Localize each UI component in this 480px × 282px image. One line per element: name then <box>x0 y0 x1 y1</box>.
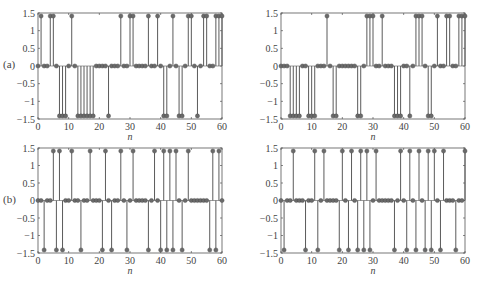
x-tick-label: 50 <box>186 255 196 266</box>
stem-marker <box>343 198 347 202</box>
stem-marker <box>389 64 393 68</box>
stem-marker <box>346 248 350 252</box>
stem-marker <box>328 64 332 68</box>
x-tick-label: 20 <box>94 255 104 266</box>
stem-marker <box>411 198 415 202</box>
stem-marker <box>435 14 439 18</box>
stem-marker <box>408 149 412 153</box>
stem-marker <box>408 114 412 118</box>
stem-marker <box>429 248 433 252</box>
y-tick-label: −1 <box>267 230 278 241</box>
stem-marker <box>73 64 77 68</box>
stem-marker <box>119 149 123 153</box>
stem-marker <box>183 64 187 68</box>
stem-marker <box>353 64 357 68</box>
stem-marker <box>441 149 445 153</box>
stem-marker <box>322 64 326 68</box>
stem-marker <box>454 64 458 68</box>
stem-marker <box>359 149 363 153</box>
stem-marker <box>131 14 135 18</box>
stem-marker <box>143 64 147 68</box>
stem-marker <box>159 64 163 68</box>
stem-marker <box>57 149 61 153</box>
stem-marker <box>316 248 320 252</box>
y-tick-label: −1.5 <box>17 114 35 125</box>
stem-marker <box>70 14 74 18</box>
stem-marker <box>220 14 224 18</box>
stem-marker <box>174 149 178 153</box>
stem-marker <box>285 64 289 68</box>
stem-marker <box>122 198 126 202</box>
stem-marker <box>152 149 156 153</box>
stem-marker <box>100 248 104 252</box>
stem-marker <box>211 64 215 68</box>
x-tick-label: 0 <box>36 121 41 132</box>
stem-marker <box>42 248 46 252</box>
y-tick-label: −0.5 <box>260 213 278 224</box>
stem-marker <box>198 64 202 68</box>
stem-marker <box>131 149 135 153</box>
stem-marker <box>143 198 147 202</box>
stem-marker <box>414 248 418 252</box>
x-tick-label: 10 <box>64 121 74 132</box>
stem-marker <box>365 149 369 153</box>
stem-marker <box>183 198 187 202</box>
x-tick-label: 20 <box>337 255 347 266</box>
stem-marker <box>91 114 95 118</box>
stem-marker <box>411 64 415 68</box>
x-tick-label: 60 <box>217 255 227 266</box>
stem-marker <box>36 64 40 68</box>
stem-marker <box>359 114 363 118</box>
x-axis-label: n <box>371 131 376 141</box>
y-tick-label: 0 <box>273 195 278 206</box>
stem-marker <box>39 14 43 18</box>
stem-marker <box>211 149 215 153</box>
stem-plot-b-left: −1.5−1−0.500.511.50102030405060n <box>0 141 240 282</box>
stem-marker <box>116 64 120 68</box>
stem-marker <box>451 198 455 202</box>
stem-marker <box>106 198 110 202</box>
stem-marker <box>97 198 101 202</box>
stem-marker <box>377 64 381 68</box>
x-tick-label: 60 <box>460 255 470 266</box>
stem-marker <box>70 149 74 153</box>
stem-marker <box>438 248 442 252</box>
x-tick-label: 40 <box>399 255 409 266</box>
stem-marker <box>189 14 193 18</box>
stem-marker <box>85 198 89 202</box>
stem-marker <box>125 248 129 252</box>
stem-plot-a-left: −1.5−1−0.500.511.50102030405060n <box>0 0 240 141</box>
y-tick-label: 1.5 <box>23 143 36 154</box>
y-tick-label: 0 <box>30 195 35 206</box>
stem-marker <box>426 149 430 153</box>
stem-marker <box>371 14 375 18</box>
y-tick-label: 0.5 <box>266 178 279 189</box>
stem-marker <box>146 248 150 252</box>
y-tick-label: 1 <box>273 25 278 36</box>
stem-marker <box>319 198 323 202</box>
stem-marker <box>423 64 427 68</box>
x-axis-label: n <box>128 265 133 276</box>
stem-marker <box>291 149 295 153</box>
stem-marker <box>54 64 58 68</box>
stem-marker <box>420 14 424 18</box>
y-tick-label: −0.5 <box>260 78 278 89</box>
stem-marker <box>180 248 184 252</box>
stem-marker <box>76 198 80 202</box>
stem-marker <box>64 114 68 118</box>
stem-marker <box>51 149 55 153</box>
stem-marker <box>432 149 436 153</box>
stem-marker <box>371 198 375 202</box>
stem-marker <box>168 149 172 153</box>
stem-marker <box>282 248 286 252</box>
stem-marker <box>392 248 396 252</box>
stem-marker <box>417 149 421 153</box>
x-tick-label: 40 <box>156 121 166 132</box>
stem-marker <box>454 248 458 252</box>
stem-marker <box>208 248 212 252</box>
stem-marker <box>279 198 283 202</box>
stem-marker <box>402 198 406 202</box>
y-tick-label: 1 <box>273 160 278 171</box>
stem-marker <box>380 14 384 18</box>
stem-marker <box>217 149 221 153</box>
